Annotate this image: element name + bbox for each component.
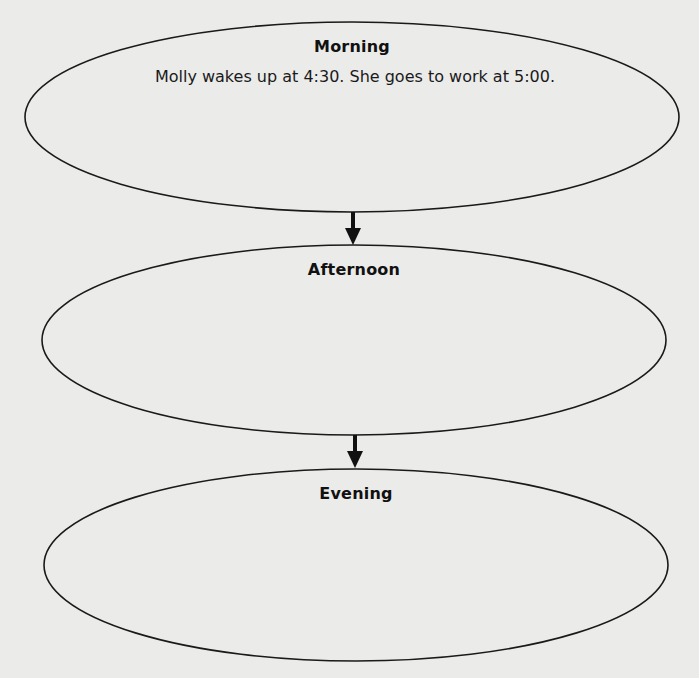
down-arrow-icon <box>347 435 363 468</box>
stage-title-afternoon: Afternoon <box>254 260 454 279</box>
stage-title-morning: Morning <box>252 37 452 56</box>
stage-text-morning: Molly wakes up at 4:30. She goes to work… <box>60 67 650 86</box>
flow-diagram <box>0 0 699 678</box>
stage-title-evening: Evening <box>256 484 456 503</box>
down-arrow-icon <box>345 212 361 245</box>
